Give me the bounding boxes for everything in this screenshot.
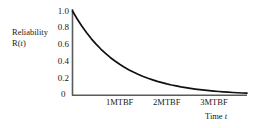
x-axis-title-prefix: Time	[205, 111, 225, 121]
reliability-curve	[73, 11, 248, 93]
reliability-decay-figure: Reliability R(t) 1.0 0.8 0.6 0.4 0.2 0 1…	[0, 0, 259, 128]
y-axis-title-paren-close: )	[23, 38, 26, 48]
x-axis-title-variable: t	[225, 111, 227, 121]
y-tick-label-1: 1.0	[51, 7, 69, 16]
x-tick-label-2mtbf: 2MTBF	[146, 98, 188, 107]
y-tick-label-2: 0.8	[51, 23, 69, 32]
y-tick-label-3: 0.6	[51, 40, 69, 49]
y-tick-label-4: 0.4	[51, 57, 69, 66]
plot-area	[0, 0, 259, 128]
y-tick-label-5: 0.2	[51, 74, 69, 83]
x-tick-label-1mtbf: 1MTBF	[99, 98, 141, 107]
x-tick-label-3mtbf: 3MTBF	[193, 98, 235, 107]
origin-label: 0	[61, 90, 66, 99]
x-axis-title: Time t	[205, 112, 227, 121]
